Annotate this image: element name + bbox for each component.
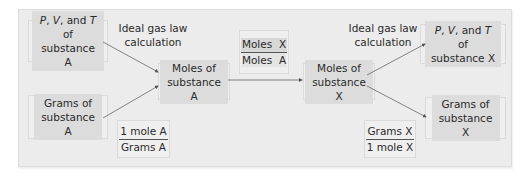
arrow-grams-a-to-moles-a [103, 86, 158, 118]
arrow-pvt-a-to-moles-a [103, 42, 158, 72]
arrow-moles-x-to-grams-x [367, 86, 426, 117]
arrows-layer [0, 0, 531, 181]
arrow-moles-x-to-pvt-x [367, 44, 425, 75]
